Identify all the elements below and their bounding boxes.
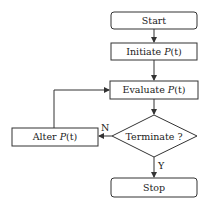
node-terminate: Terminate ?: [112, 115, 197, 157]
node-stop-label: Stop: [143, 182, 165, 193]
no-label: N: [101, 122, 109, 133]
node-start: Start: [111, 12, 197, 29]
node-evaluate: Evaluate P(t): [110, 81, 198, 99]
node-evaluate-label: Evaluate P(t): [123, 84, 186, 95]
flowchart: N Y Start Initiate P(t) Evaluate P(t) Te…: [0, 0, 209, 205]
yes-label: Y: [157, 160, 165, 171]
node-initiate: Initiate P(t): [111, 43, 197, 60]
node-initiate-label: Initiate P(t): [126, 46, 182, 57]
node-terminate-label: Terminate ?: [125, 131, 182, 142]
node-alter-label: Alter P(t): [32, 131, 78, 142]
node-start-label: Start: [142, 15, 167, 26]
node-alter: Alter P(t): [12, 128, 98, 146]
node-stop: Stop: [111, 178, 197, 197]
